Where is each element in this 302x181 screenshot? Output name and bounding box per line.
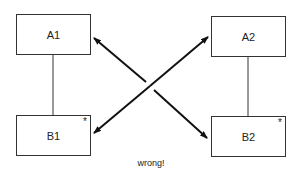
edge-a1-b2-lower — [154, 90, 207, 138]
asterisk-marker: * — [278, 118, 282, 128]
caption: wrong! — [0, 158, 302, 168]
node-b1: B1 * — [16, 115, 91, 156]
node-a1-label: A1 — [47, 29, 60, 41]
node-a2-label: A2 — [242, 31, 255, 43]
node-b2: B2 * — [211, 116, 286, 157]
edge-a1-b2-upper — [94, 38, 146, 82]
node-a2: A2 — [211, 16, 286, 57]
node-b1-label: B1 — [47, 130, 60, 142]
node-b2-label: B2 — [242, 131, 255, 143]
edge-b1-a2-lower — [94, 86, 150, 133]
diagram-canvas: A1 B1 * A2 B2 * wrong! — [0, 0, 302, 181]
node-a1: A1 — [16, 14, 91, 55]
asterisk-marker: * — [83, 117, 87, 127]
edge-b1-a2-upper — [150, 37, 208, 86]
